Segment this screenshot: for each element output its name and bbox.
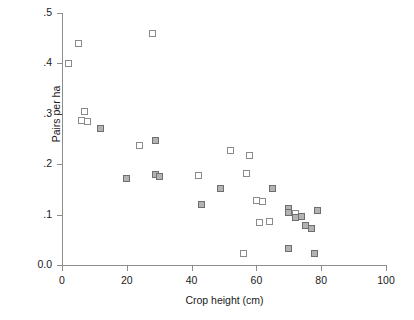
data-point-open-square xyxy=(256,219,263,226)
data-point-open-square xyxy=(81,108,88,115)
x-axis-line xyxy=(62,265,387,266)
data-point-open-square xyxy=(240,250,247,257)
x-tick-mark xyxy=(127,266,128,271)
y-tick-label: .1 xyxy=(0,208,52,220)
y-tick-label: .5 xyxy=(0,6,52,18)
y-tick-label: .3 xyxy=(0,107,52,119)
x-tick-label: 80 xyxy=(296,274,346,286)
data-point-filled-square xyxy=(269,185,276,192)
x-tick-label: 20 xyxy=(102,274,152,286)
data-point-filled-square xyxy=(97,125,104,132)
data-point-filled-square xyxy=(123,175,130,182)
data-point-filled-square xyxy=(311,250,318,257)
data-point-open-square xyxy=(243,170,250,177)
data-point-filled-square xyxy=(308,225,315,232)
x-tick-label: 40 xyxy=(167,274,217,286)
y-tick-label: .4 xyxy=(0,56,52,68)
data-point-filled-square xyxy=(198,201,205,208)
plot-area xyxy=(62,13,386,265)
x-tick-mark xyxy=(386,266,387,271)
data-point-filled-square xyxy=(314,207,321,214)
data-point-open-square xyxy=(246,152,253,159)
x-tick-mark xyxy=(192,266,193,271)
data-point-filled-square xyxy=(285,245,292,252)
x-tick-label: 60 xyxy=(231,274,281,286)
data-point-open-square xyxy=(84,118,91,125)
y-tick-label: 0.0 xyxy=(0,258,52,270)
data-point-open-square xyxy=(266,218,273,225)
x-tick-mark xyxy=(256,266,257,271)
x-tick-mark xyxy=(321,266,322,271)
y-axis-title: Pairs per ha xyxy=(50,54,62,174)
data-point-open-square xyxy=(195,172,202,179)
x-axis-title: Crop height (cm) xyxy=(62,294,387,306)
data-point-open-square xyxy=(136,142,143,149)
data-point-open-square xyxy=(227,147,234,154)
data-point-open-square xyxy=(75,40,82,47)
scatter-plot-figure: 0.0.1.2.3.4.5 020406080100 Pairs per ha … xyxy=(0,0,414,320)
data-point-open-square xyxy=(65,60,72,67)
x-tick-label: 100 xyxy=(361,274,411,286)
data-point-open-square xyxy=(259,198,266,205)
y-tick-label: .2 xyxy=(0,157,52,169)
data-point-filled-square xyxy=(156,173,163,180)
data-point-open-square xyxy=(149,30,156,37)
data-point-filled-square xyxy=(152,137,159,144)
data-point-filled-square xyxy=(217,185,224,192)
x-tick-label: 0 xyxy=(37,274,87,286)
data-point-filled-square xyxy=(298,213,305,220)
x-tick-mark xyxy=(62,266,63,271)
